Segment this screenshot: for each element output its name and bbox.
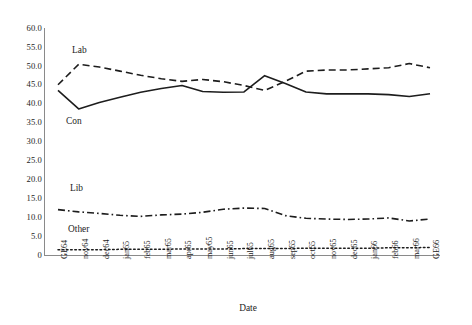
x-axis-title: Date	[0, 303, 472, 313]
series-line-other	[58, 247, 430, 249]
series-label-other: Other	[68, 225, 89, 234]
series-label-lab: Lab	[72, 46, 87, 55]
series-line-lab	[58, 64, 430, 91]
chart-plot-area	[0, 0, 472, 325]
series-line-con	[58, 76, 430, 109]
series-label-con: Con	[66, 117, 82, 126]
series-label-lib: Lib	[70, 184, 83, 193]
line-chart: 60.055.050.045.040.035.030.025.020.015.0…	[0, 0, 472, 325]
series-line-lib	[58, 208, 430, 221]
